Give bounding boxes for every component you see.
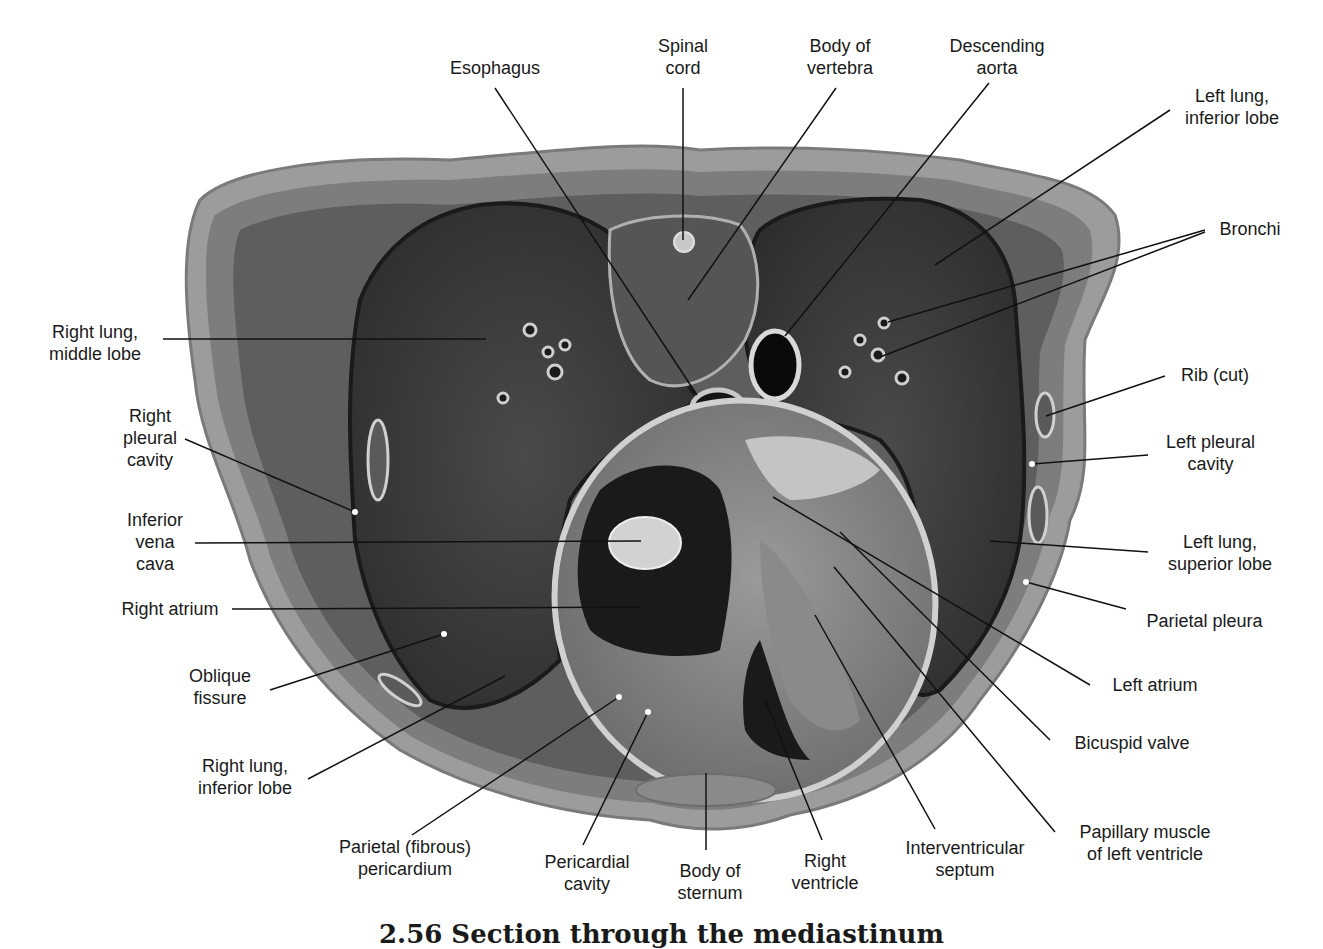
label-body-of-sternum: Body of sternum <box>660 860 760 904</box>
label-left-lung-superior-lobe: Left lung, superior lobe <box>1150 531 1290 575</box>
label-rib-cut: Rib (cut) <box>1165 364 1265 386</box>
label-right-lung-middle-lobe: Right lung, middle lobe <box>30 321 160 365</box>
label-bicuspid-valve: Bicuspid valve <box>1062 732 1202 754</box>
descending-aorta <box>751 331 799 399</box>
label-right-ventricle: Right ventricle <box>775 850 875 894</box>
label-parietal-fibrous-pericardium: Parietal (fibrous) pericardium <box>325 836 485 880</box>
label-left-atrium: Left atrium <box>1100 674 1210 696</box>
label-right-pleural-cavity: Right pleural cavity <box>110 405 190 471</box>
label-left-pleural-cavity: Left pleural cavity <box>1148 431 1273 475</box>
label-parietal-pleura: Parietal pleura <box>1132 610 1277 632</box>
label-pericardial-cavity: Pericardial cavity <box>532 851 642 895</box>
spinal-cord <box>674 232 694 252</box>
inferior-vena-cava <box>609 517 681 569</box>
label-esophagus: Esophagus <box>440 57 550 79</box>
label-right-lung-inferior-lobe: Right lung, inferior lobe <box>185 755 305 799</box>
label-body-of-vertebra: Body of vertebra <box>790 35 890 79</box>
label-oblique-fissure: Oblique fissure <box>180 665 260 709</box>
label-bronchi: Bronchi <box>1205 218 1295 240</box>
label-descending-aorta: Descending aorta <box>932 35 1062 79</box>
label-right-atrium: Right atrium <box>110 598 230 620</box>
label-interventricular-septum: Interventricular septum <box>890 837 1040 881</box>
label-left-lung-inferior-lobe: Left lung, inferior lobe <box>1172 85 1292 129</box>
label-papillary-muscle: Papillary muscle of left ventricle <box>1065 821 1225 865</box>
label-spinal-cord: Spinal cord <box>633 35 733 79</box>
label-inferior-vena-cava: Inferior vena cava <box>110 509 200 575</box>
figure-caption: 2.56 Section through the mediastinum <box>0 919 1323 949</box>
